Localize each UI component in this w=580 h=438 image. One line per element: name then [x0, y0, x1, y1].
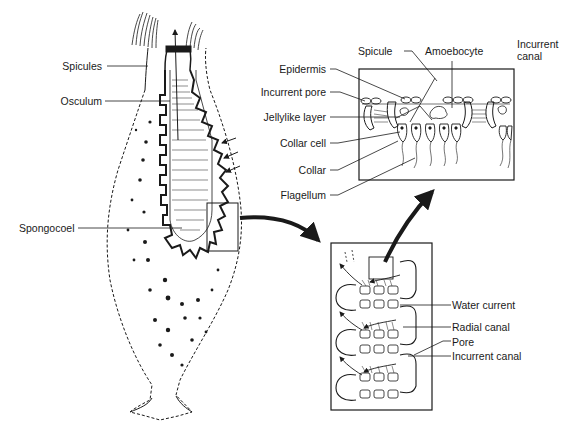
- label-spongocoel: Spongocoel: [19, 222, 74, 234]
- label-radial-canal: Radial canal: [452, 321, 510, 333]
- label-spicule: Spicule: [358, 45, 392, 57]
- label-incurrent-canal-top-line2: canal: [517, 50, 542, 62]
- label-incurrent-canal: Incurrent canal: [452, 350, 521, 362]
- label-jellylike-layer: Jellylike layer: [230, 111, 326, 123]
- label-flagellum: Flagellum: [240, 189, 326, 201]
- label-incurrent-canal-top-line1: Incurrent: [517, 38, 558, 50]
- spicule-fringe-icon: [132, 12, 203, 50]
- label-collar-cell: Collar cell: [240, 137, 326, 149]
- sponge-body: [107, 12, 241, 420]
- canal-detail-panel: [331, 243, 432, 410]
- label-osculum: Osculum: [20, 95, 102, 107]
- cell-detail-panel: [359, 69, 514, 180]
- label-pore: Pore: [452, 336, 474, 348]
- label-water-current: Water current: [452, 299, 515, 311]
- label-epidermis: Epidermis: [240, 63, 326, 75]
- label-amoebocyte: Amoebocyte: [425, 45, 483, 57]
- label-incurrent-pore: Incurrent pore: [230, 86, 326, 98]
- label-spicules: Spicules: [20, 60, 102, 72]
- zoom-arrow-to-canal-icon: [240, 217, 318, 240]
- zoom-arrow-to-cell-icon: [385, 192, 432, 262]
- label-collar: Collar: [240, 164, 326, 176]
